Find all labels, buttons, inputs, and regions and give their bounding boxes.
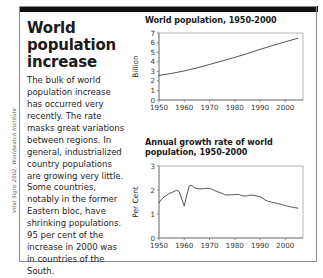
svg-text:3: 3 [150, 162, 155, 171]
svg-text:1950: 1950 [150, 103, 169, 112]
svg-text:2000: 2000 [276, 241, 295, 250]
svg-text:Billion: Billion [131, 55, 140, 78]
svg-text:3: 3 [150, 67, 155, 76]
plot-area-world-population: 01234567195019601970198019902000Billion [128, 16, 314, 120]
svg-text:2000: 2000 [276, 103, 295, 112]
svg-text:1970: 1970 [200, 241, 219, 250]
svg-text:1970: 1970 [200, 103, 219, 112]
svg-text:7: 7 [150, 29, 155, 38]
svg-text:1950: 1950 [150, 241, 169, 250]
svg-text:6: 6 [150, 38, 155, 47]
svg-text:1960: 1960 [175, 241, 194, 250]
svg-text:Per Cent: Per Cent [131, 186, 140, 218]
article-body: The bulk of world population increase ha… [27, 75, 127, 277]
svg-text:1960: 1960 [175, 103, 194, 112]
article-text-column: World population increase The bulk of wo… [27, 20, 127, 278]
svg-text:1980: 1980 [226, 241, 245, 250]
svg-text:2: 2 [150, 186, 155, 195]
svg-text:1: 1 [150, 86, 155, 95]
chart-world-population: World population, 1950-2000 012345671950… [128, 16, 314, 120]
page-title: World population increase [27, 20, 127, 70]
source-credit: Vital Signs 2002, Worldwatch Institute [11, 93, 17, 213]
svg-text:1990: 1990 [251, 103, 270, 112]
svg-text:1980: 1980 [226, 103, 245, 112]
svg-text:1: 1 [150, 210, 155, 219]
svg-text:5: 5 [150, 48, 155, 57]
svg-text:2: 2 [150, 76, 155, 85]
svg-text:4: 4 [150, 57, 155, 66]
chart-annual-growth-rate: Annual growth rate of world population, … [128, 138, 314, 258]
plot-area-annual-growth-rate: 0123195019601970198019902000Per Cent [128, 138, 314, 258]
svg-text:1990: 1990 [251, 241, 270, 250]
